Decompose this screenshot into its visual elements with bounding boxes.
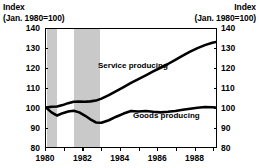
y-axis-tick-mark	[45, 68, 48, 69]
x-axis-tick-label: 1986	[137, 153, 177, 163]
right-axis-title: Index (Jan. 1980=100)	[194, 2, 256, 23]
x-axis-tick-mark	[139, 148, 140, 151]
y-axis-right-tick-label: 80	[221, 143, 259, 153]
y-axis-tick-mark	[45, 108, 48, 109]
y-axis-tick-mark	[45, 48, 48, 49]
y-axis-left-tick-label: 120	[0, 63, 40, 73]
y-axis-right-tick-label: 140	[221, 23, 259, 33]
x-axis-tick-mark	[101, 148, 102, 151]
employment-index-chart: Index (Jan. 1980=100) Index (Jan. 1980=1…	[0, 0, 259, 168]
y-axis-right-tick-label: 120	[221, 63, 259, 73]
x-axis-tick-mark	[45, 148, 46, 151]
y-axis-tick-mark	[214, 88, 217, 89]
x-axis-tick-mark	[176, 148, 177, 151]
left-axis-title-line2: (Jan. 1980=100)	[3, 13, 65, 24]
x-axis-tick-mark	[195, 148, 196, 151]
y-axis-right-tick-label: 100	[221, 103, 259, 113]
x-axis-tick-mark	[82, 148, 83, 151]
right-axis-title-line1: Index	[194, 2, 256, 13]
x-axis-tick-label: 1982	[62, 153, 102, 163]
x-axis-tick-label: 1988	[175, 153, 215, 163]
x-axis-tick-mark	[64, 148, 65, 151]
series-label-goods-producing: Goods producing	[133, 111, 200, 120]
x-axis-tick-mark	[120, 148, 121, 151]
y-axis-right-tick-label: 110	[221, 83, 259, 93]
y-axis-left-tick-label: 100	[0, 103, 40, 113]
y-axis-left-tick-label: 140	[0, 23, 40, 33]
y-axis-tick-mark	[45, 88, 48, 89]
y-axis-left-tick-label: 80	[0, 143, 40, 153]
left-axis-title-line1: Index	[3, 2, 65, 13]
y-axis-left-tick-label: 90	[0, 123, 40, 133]
x-axis-tick-mark	[213, 148, 214, 151]
y-axis-right-tick-label: 130	[221, 43, 259, 53]
y-axis-tick-mark	[214, 108, 217, 109]
plot-area	[45, 28, 217, 148]
series-label-service-producing: Service producing	[98, 61, 168, 70]
y-axis-right-tick-label: 90	[221, 123, 259, 133]
x-axis-tick-mark	[157, 148, 158, 151]
x-axis-tick-label: 1980	[25, 153, 65, 163]
y-axis-left-tick-label: 130	[0, 43, 40, 53]
x-axis-tick-label: 1984	[100, 153, 140, 163]
series-line-service-producing	[46, 42, 216, 108]
left-axis-title: Index (Jan. 1980=100)	[3, 2, 65, 23]
y-axis-left-tick-label: 110	[0, 83, 40, 93]
y-axis-tick-mark	[214, 48, 217, 49]
y-axis-tick-mark	[214, 128, 217, 129]
series-lines	[46, 29, 216, 147]
right-axis-title-line2: (Jan. 1980=100)	[194, 13, 256, 24]
y-axis-tick-mark	[45, 128, 48, 129]
y-axis-tick-mark	[214, 68, 217, 69]
